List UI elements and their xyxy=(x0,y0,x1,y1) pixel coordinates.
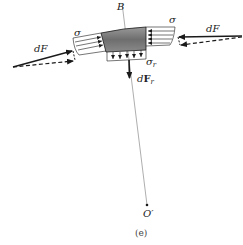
label-sigma-r: σr xyxy=(146,56,157,69)
label-O-prime: O′ xyxy=(143,208,154,219)
dFr-arrow xyxy=(129,60,130,78)
center-point xyxy=(146,204,149,207)
label-B: B xyxy=(116,1,124,12)
label-dF-left: dF xyxy=(34,43,48,54)
label-sigma-left: σ xyxy=(74,27,82,38)
sigma-right-distribution xyxy=(146,27,175,46)
beam-element xyxy=(101,27,146,52)
label-sigma-right: σ xyxy=(169,14,177,25)
dF-right-arrows xyxy=(178,36,242,45)
label-dF-right: dF xyxy=(206,23,220,34)
free-body-diagram: B σ σ σr dF dF dFr O′ (e) xyxy=(0,0,243,245)
figure-caption: (e) xyxy=(135,228,147,238)
label-dFr: dFr xyxy=(137,73,155,86)
